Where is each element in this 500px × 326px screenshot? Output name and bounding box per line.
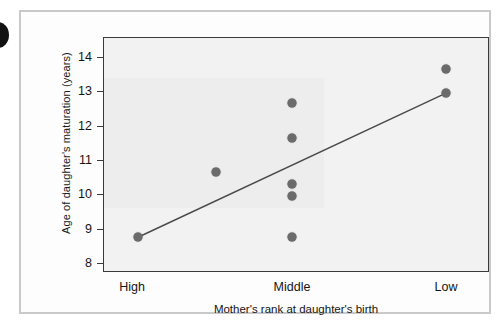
data-point <box>442 89 451 98</box>
y-axis-tick-label: 11 <box>79 153 92 167</box>
figure-outer-frame: Age of daughter's maturation (years) 891… <box>19 10 491 314</box>
data-point <box>288 192 297 201</box>
y-axis-tick <box>97 229 104 230</box>
trend-line <box>104 38 490 273</box>
y-axis-tick-label: 10 <box>78 187 92 201</box>
data-point <box>442 65 451 74</box>
data-point <box>288 180 297 189</box>
x-axis-tick-label: Middle <box>274 280 311 294</box>
y-axis-tick <box>97 57 104 58</box>
x-axis-tick-label: High <box>119 280 145 294</box>
y-axis-tick-label: 9 <box>85 222 92 236</box>
y-axis-tick <box>97 160 104 161</box>
y-axis-title: Age of daughter's maturation (years) <box>60 18 72 268</box>
plot-area: 891011121314HighMiddleLow <box>103 37 489 272</box>
x-axis-tick-label: Low <box>435 280 458 294</box>
data-point <box>212 168 221 177</box>
y-axis-tick-label: 12 <box>78 119 92 133</box>
y-axis-tick <box>97 91 104 92</box>
plot-inner: 891011121314HighMiddleLow <box>104 38 488 271</box>
y-axis-tick-label: 13 <box>78 84 92 98</box>
y-axis-tick <box>97 263 104 264</box>
y-axis-tick <box>97 194 104 195</box>
data-point <box>288 99 297 108</box>
y-axis-tick-label: 14 <box>78 50 92 64</box>
y-axis-tick <box>97 126 104 127</box>
edge-marker-icon <box>0 22 9 48</box>
x-axis-title: Mother's rank at daughter's birth <box>103 303 489 315</box>
data-point <box>134 233 143 242</box>
y-axis-tick-label: 8 <box>85 256 92 270</box>
data-point <box>288 133 297 142</box>
data-point <box>288 233 297 242</box>
figure-page: Age of daughter's maturation (years) 891… <box>0 0 500 326</box>
